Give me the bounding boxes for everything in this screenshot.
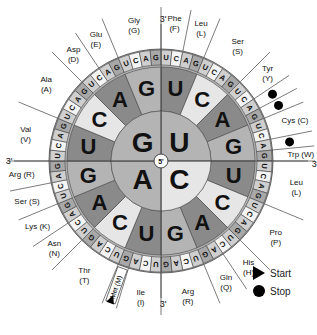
amino-acid-divider xyxy=(102,19,118,58)
center-label: 5' xyxy=(158,158,164,165)
third-base-letter: U xyxy=(260,163,269,169)
amino-acid-label: (E) xyxy=(91,40,102,49)
second-base-letter: A xyxy=(92,190,108,215)
amino-acid-label: Ala xyxy=(40,75,52,84)
amino-acid-label: Cys (C) xyxy=(281,116,308,125)
first-base-letter: U xyxy=(169,127,189,158)
amino-acid-label: (A) xyxy=(41,85,52,94)
stop-dot-icon xyxy=(253,285,265,297)
start-triangle-icon xyxy=(253,266,265,280)
second-base-letter: G xyxy=(138,76,155,101)
amino-acid-label: (Q) xyxy=(220,283,232,292)
amino-acid-label: (S) xyxy=(232,47,243,56)
amino-acid-label: (V) xyxy=(20,135,31,144)
stop-codon-dot xyxy=(285,137,294,146)
second-base-letter: A xyxy=(215,107,231,132)
second-base-letter: U xyxy=(80,134,96,159)
amino-acid-label: Trp (W) xyxy=(287,150,314,159)
third-base-letter: U xyxy=(153,260,159,269)
legend-stop-label: Stop xyxy=(270,286,291,297)
amino-acid-label: Ser (S) xyxy=(14,197,40,206)
second-base-letter: U xyxy=(226,163,242,188)
amino-acid-divider xyxy=(10,183,51,191)
third-base-letter: G xyxy=(260,153,269,159)
amino-acid-divider xyxy=(183,10,191,51)
amino-acid-label: (Y) xyxy=(262,74,273,83)
amino-acid-label: Leu xyxy=(194,19,207,28)
amino-acid-label: (F) xyxy=(169,24,180,33)
amino-acid-label: (G) xyxy=(128,26,140,35)
first-base-letter: A xyxy=(132,164,152,195)
legend-start: Start xyxy=(253,266,291,280)
amino-acid-label: Arg xyxy=(182,287,194,296)
start-codon-marker: Met (M) xyxy=(105,267,127,305)
amino-acid-label: Lys (K) xyxy=(25,222,50,231)
amino-acid-label: (L) xyxy=(196,29,206,38)
second-base-letter: G xyxy=(167,221,184,246)
amino-acid-label: Pro xyxy=(270,228,283,237)
amino-acid-label: (T) xyxy=(79,276,90,285)
legend-stop: Stop xyxy=(253,285,291,297)
legend-start-label: Start xyxy=(270,268,291,279)
amino-acid-divider xyxy=(19,102,58,118)
amino-acid-label: (N) xyxy=(49,249,60,258)
amino-acid-label: (R) xyxy=(182,297,193,306)
first-base-letter: C xyxy=(169,164,189,195)
third-base-letter: U xyxy=(53,153,62,159)
first-base-letter: G xyxy=(132,127,154,158)
second-base-letter: C xyxy=(92,107,108,132)
second-base-letter: G xyxy=(80,163,97,188)
amino-acid-label: Phe xyxy=(167,14,182,23)
amino-acid-divider xyxy=(264,204,303,220)
second-base-letter: C xyxy=(215,190,231,215)
stop-codon-dot xyxy=(268,90,277,99)
second-base-letter: G xyxy=(225,134,242,159)
amino-acid-label: Gly xyxy=(128,16,140,25)
amino-acid-label: Ile xyxy=(137,288,146,297)
amino-acid-label: Val xyxy=(20,125,31,134)
amino-acid-label: Leu xyxy=(290,178,303,187)
third-base-letter: G xyxy=(53,163,62,169)
second-base-letter: C xyxy=(112,210,128,235)
second-base-letter: A xyxy=(112,87,128,112)
amino-acid-label: Ser xyxy=(231,37,244,46)
second-base-letter: A xyxy=(194,210,210,235)
amino-acid-label: (D) xyxy=(68,55,79,64)
amino-acid-label: Arg (R) xyxy=(9,170,35,179)
amino-acid-label: Gln xyxy=(220,273,232,282)
amino-acid-label: Asp xyxy=(67,45,81,54)
second-base-letter: U xyxy=(139,221,155,246)
third-base-letter: G xyxy=(163,260,169,269)
third-base-letter: G xyxy=(153,53,159,62)
second-base-letter: U xyxy=(167,76,183,101)
amino-acid-label: Tyr xyxy=(262,64,273,73)
second-base-letter: C xyxy=(194,87,210,112)
stop-codon-dot xyxy=(274,101,283,110)
amino-acid-divider xyxy=(204,264,220,303)
amino-acid-label: Glu xyxy=(90,30,102,39)
axis-label-right: 3' xyxy=(312,159,317,169)
amino-acid-label: (I) xyxy=(137,298,145,307)
third-base-letter: U xyxy=(163,53,169,62)
amino-acid-divider xyxy=(19,204,58,220)
amino-acid-label: Asn xyxy=(47,239,61,248)
amino-acid-label: (P) xyxy=(270,238,281,247)
amino-acid-label: Thr xyxy=(78,266,90,275)
amino-acid-label: (L) xyxy=(291,188,301,197)
